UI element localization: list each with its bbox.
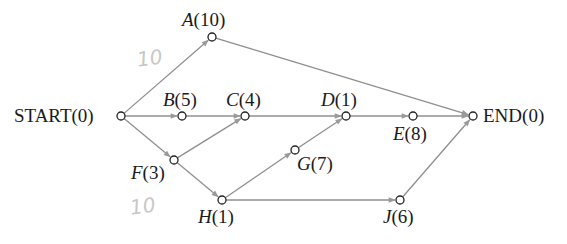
label-j: J(6) — [383, 207, 414, 226]
b-value: (5) — [175, 89, 197, 110]
edge-h-g — [225, 153, 291, 198]
label-end: END(0) — [483, 106, 544, 125]
h-letter: H — [198, 206, 212, 227]
label-d: D(1) — [321, 90, 357, 109]
edge-f-c — [177, 119, 240, 158]
b-letter: B — [163, 89, 175, 110]
node-j — [396, 196, 404, 204]
node-a — [208, 33, 216, 41]
edges — [124, 38, 470, 200]
node-d — [342, 112, 350, 120]
d-letter: D — [321, 89, 335, 110]
node-c — [241, 112, 249, 120]
start-label-text: START(0) — [14, 105, 94, 126]
node-h — [218, 196, 226, 204]
node-end — [469, 112, 477, 120]
e-value: (8) — [405, 123, 427, 144]
f-value: (3) — [143, 162, 165, 183]
label-f: F(3) — [131, 163, 165, 182]
handwritten-note-1: 10 — [135, 44, 164, 71]
label-h: H(1) — [198, 207, 234, 226]
c-letter: C — [226, 89, 239, 110]
label-a: A(10) — [182, 10, 225, 29]
d-value: (1) — [335, 89, 357, 110]
edge-g-d — [298, 119, 342, 148]
c-value: (4) — [239, 89, 261, 110]
label-e: E(8) — [393, 124, 427, 143]
handwritten-note-2: 10 — [128, 192, 157, 219]
node-b — [178, 112, 186, 120]
edge-start-f — [124, 119, 170, 157]
edge-f-h — [177, 163, 218, 197]
label-start: START(0) — [14, 106, 94, 125]
g-value: (7) — [311, 153, 333, 174]
j-value: (6) — [391, 206, 413, 227]
g-letter: G — [297, 153, 311, 174]
label-c: C(4) — [226, 90, 261, 109]
node-start — [117, 112, 125, 120]
label-b: B(5) — [163, 90, 197, 109]
end-label-text: END(0) — [483, 105, 544, 126]
f-letter: F — [131, 162, 143, 183]
node-e — [409, 112, 417, 120]
nodes — [117, 33, 477, 204]
a-letter: A — [182, 9, 194, 30]
a-value: (10) — [194, 9, 226, 30]
node-f — [170, 156, 178, 164]
h-value: (1) — [212, 206, 234, 227]
label-g: G(7) — [297, 154, 333, 173]
e-letter: E — [393, 123, 405, 144]
